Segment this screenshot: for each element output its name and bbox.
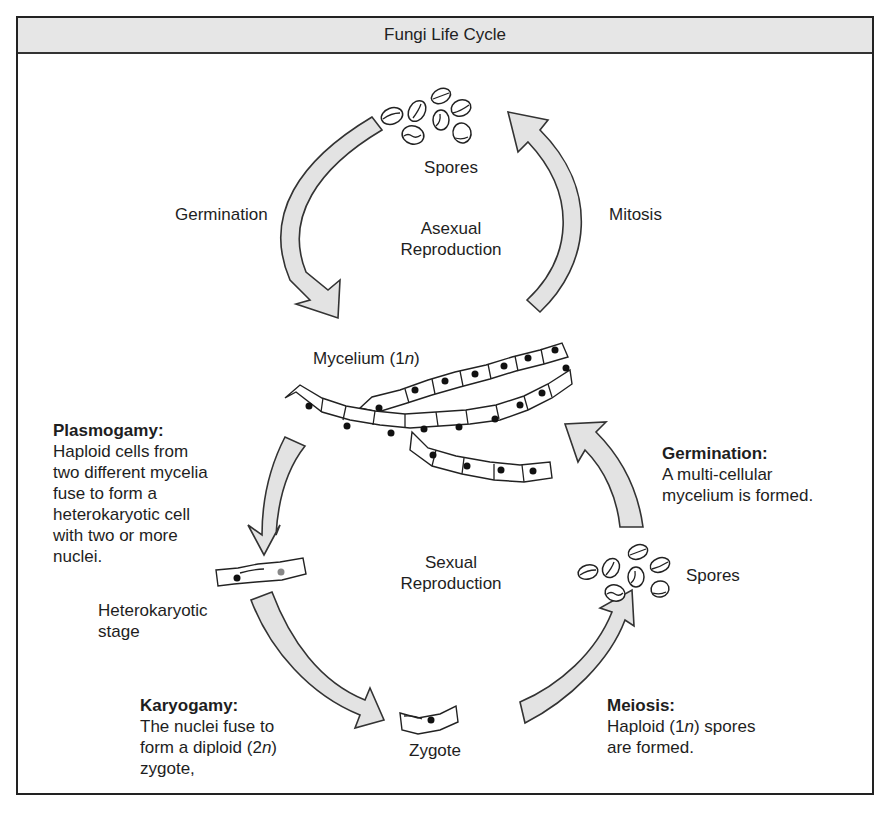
mitosis-arrow xyxy=(508,112,581,312)
zygote-cell-icon xyxy=(400,706,458,734)
germination-arrow xyxy=(281,117,382,318)
plasmogamy-heading: Plasmogamy: xyxy=(53,420,208,441)
spores-top-icon xyxy=(379,85,473,146)
spores-top-label: Spores xyxy=(401,157,501,178)
germination-sexual-text: Germination: A multi-cellular mycelium i… xyxy=(662,443,813,506)
diagram-artwork xyxy=(0,0,893,813)
sexual-reproduction-label: Sexual Reproduction xyxy=(396,552,506,594)
plasmogamy-text: Plasmogamy: Haploid cells from two diffe… xyxy=(53,420,208,567)
meiosis-text: Meiosis: Haploid (1n) spores are formed. xyxy=(607,695,755,758)
karyogamy-text: Karyogamy: The nuclei fuse to form a dip… xyxy=(140,695,277,779)
germination-heading: Germination: xyxy=(662,443,813,464)
zygote-label: Zygote xyxy=(390,740,480,761)
karyogamy-line2: form a diploid (2n) xyxy=(140,737,277,758)
mitosis-label: Mitosis xyxy=(609,204,662,225)
heterokaryotic-cell-icon xyxy=(216,558,306,586)
germination-sexual-arrow xyxy=(565,422,643,527)
germination-label: Germination xyxy=(175,204,268,225)
meiosis-heading: Meiosis: xyxy=(607,695,755,716)
spores-sexual-icon xyxy=(577,542,672,603)
asexual-reproduction-label: Asexual Reproduction xyxy=(386,218,516,260)
heterokaryotic-label: Heterokaryotic stage xyxy=(98,600,208,642)
plasmogamy-arrow xyxy=(248,437,305,555)
karyogamy-heading: Karyogamy: xyxy=(140,695,277,716)
mycelium-label: Mycelium (1n) xyxy=(313,348,420,369)
spores-sexual-label: Spores xyxy=(686,565,740,586)
meiosis-line1: Haploid (1n) spores xyxy=(607,716,755,737)
